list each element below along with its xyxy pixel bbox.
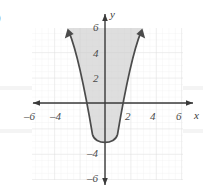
x-tick-label-6: 6 — [176, 111, 182, 122]
y-tick-label-6: 6 — [93, 22, 99, 33]
y-tick-label-4: 4 — [93, 48, 99, 59]
x-tick-label--4: –4 — [50, 111, 61, 122]
x-axis-label: x — [194, 110, 199, 121]
x-tick-label-4: 4 — [150, 111, 156, 122]
figure-item-label: ) — [0, 12, 1, 23]
x-tick-label--6: –6 — [24, 111, 35, 122]
y-tick-label--4: –4 — [87, 148, 98, 159]
graph-figure: ) x y –6 –4 2 4 6 6 4 2 –4 –6 — [0, 0, 203, 190]
y-tick-label--6: –6 — [87, 173, 98, 184]
x-tick-label-2: 2 — [125, 111, 131, 122]
y-axis-label: y — [110, 9, 115, 20]
y-tick-label-2: 2 — [93, 73, 99, 84]
coordinate-plane — [0, 0, 203, 190]
